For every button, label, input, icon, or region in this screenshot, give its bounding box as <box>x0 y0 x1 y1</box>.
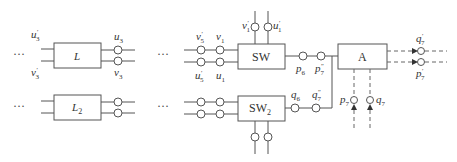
port-v5-prime <box>197 46 205 54</box>
label-q6: q6 <box>291 88 301 103</box>
port-u1 <box>216 58 224 66</box>
label-v3: v3 <box>114 66 123 81</box>
label-p6: p6 <box>295 62 306 77</box>
port-p7-dprime <box>317 52 325 60</box>
port-p6 <box>299 52 307 60</box>
label-p7: p7 <box>339 93 350 108</box>
label-u3: u3 <box>114 30 124 45</box>
label-v1: v1 <box>216 30 225 45</box>
ellipsis-left-bottom: ··· <box>13 99 25 113</box>
label-u5-prime: u'5 <box>195 69 204 84</box>
system-diagram: ··· ··· L u'3 v'3 u3 v3 L2 ··· ··· <box>0 0 457 162</box>
port-v3 <box>114 57 122 65</box>
port-q7 <box>367 97 374 104</box>
port-sw2-in-top-1 <box>197 98 205 106</box>
ellipsis-mid-bottom: ··· <box>157 99 169 113</box>
port-sw2-bottom-1 <box>251 133 259 141</box>
block-A: A <box>338 44 447 130</box>
label-q7-dprime: q"7 <box>312 88 321 103</box>
label-v5-prime: v'5 <box>196 30 204 45</box>
label-p7-dprime: p"7 <box>314 62 324 77</box>
block-L2: L2 <box>41 95 135 120</box>
port-sw2-in-bottom-1 <box>197 110 205 118</box>
label-v3-prime: v'3 <box>31 66 39 81</box>
port-sw2-in-bottom-2 <box>216 110 224 118</box>
port-q7-prime <box>418 48 425 55</box>
port-q6 <box>291 104 299 112</box>
ellipsis-left-top: ··· <box>13 47 25 61</box>
port-sw2-in-top-2 <box>216 98 224 106</box>
port-p7-prime <box>418 59 425 66</box>
port-q7-dprime <box>312 104 320 112</box>
port-p7 <box>351 97 358 104</box>
block-L-label: L <box>73 50 80 62</box>
block-SW-label: SW <box>252 50 271 64</box>
ellipsis-mid-top: ··· <box>157 47 169 61</box>
block-SW2: SW2 <box>184 56 332 154</box>
port-u1-prime <box>264 23 272 31</box>
port-v1 <box>216 46 224 54</box>
label-u1: u1 <box>216 69 226 84</box>
port-l2-bottom <box>114 109 122 117</box>
block-A-label: A <box>358 50 367 64</box>
port-sw2-bottom-2 <box>264 133 272 141</box>
block-L: L <box>41 43 135 68</box>
label-q7: q7 <box>376 93 386 108</box>
label-u3-prime: u'3 <box>31 28 40 43</box>
label-v1-prime: v'1 <box>242 19 250 34</box>
label-u1-prime: u'1 <box>273 19 282 34</box>
port-v1-prime <box>251 23 259 31</box>
port-l2-top <box>114 98 122 106</box>
port-u5-prime <box>197 58 205 66</box>
port-u3 <box>114 46 122 54</box>
block-SW: SW <box>184 11 338 69</box>
label-q7-prime: q'7 <box>416 32 425 47</box>
label-p7-prime: p'7 <box>415 67 425 82</box>
